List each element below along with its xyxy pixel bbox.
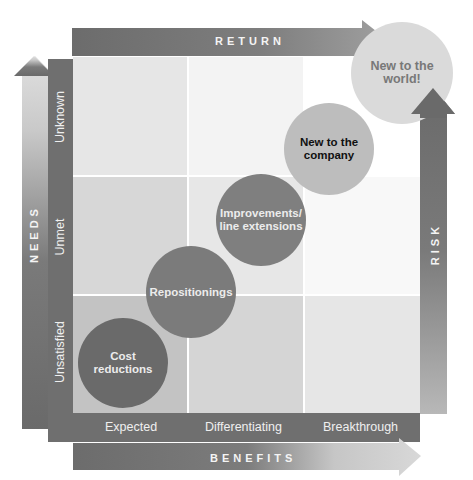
cell-unknown-expected <box>73 57 187 175</box>
risk-axis-title: RISK <box>429 214 441 274</box>
bubble-world-line2: world! <box>370 73 433 86</box>
bubble-company-line1: New to the <box>300 136 358 149</box>
bubble-cost-line1: Cost <box>94 350 153 363</box>
needs-label-unknown: Unknown <box>53 87 67 147</box>
benefits-label-differentiating: Differentiating <box>205 420 282 434</box>
cell-unsatisfied-breakthrough <box>305 296 420 413</box>
bubble-improvements-line2: line extensions <box>219 220 302 233</box>
bubble-repositionings: Repositionings <box>146 246 236 338</box>
bubble-improvements-line1: Improvements/ <box>219 207 302 220</box>
risk-arrow-head <box>410 86 458 118</box>
benefits-label-expected: Expected <box>105 420 157 434</box>
bubble-new-to-company: New to the company <box>284 103 374 195</box>
benefits-axis-title: BENEFITS <box>210 452 296 464</box>
benefits-label-breakthrough: Breakthrough <box>323 420 398 434</box>
return-axis-title: RETURN <box>215 35 285 47</box>
bubble-company-line2: company <box>300 149 358 162</box>
bubble-cost-reductions: Cost reductions <box>78 318 168 408</box>
needs-label-unsatisfied: Unsatisfied <box>53 312 67 392</box>
bubble-repositionings-line1: Repositionings <box>149 286 232 299</box>
bubble-cost-line2: reductions <box>94 363 153 376</box>
bubble-improvements: Improvements/ line extensions <box>216 174 306 266</box>
needs-axis-title: NEEDS <box>28 204 40 264</box>
needs-label-unmet: Unmet <box>53 207 67 267</box>
